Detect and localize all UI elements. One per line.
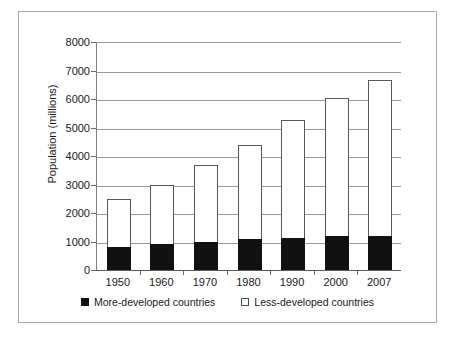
x-tick-mark [314,270,315,275]
x-tick-mark [227,270,228,275]
x-tick-mark [270,270,271,275]
gridline [97,129,401,130]
bar-2007[interactable] [368,80,392,270]
x-tick-mark [140,270,141,275]
y-tick-label: 5000 [50,123,90,133]
bar-segment-more-developed-1990[interactable] [281,238,305,270]
y-tick-label: 3000 [50,180,90,190]
legend-label: More-developed countries [94,296,215,308]
y-tick-label: 0 [50,265,90,275]
bar-1980[interactable] [238,145,262,270]
bar-1950[interactable] [107,199,131,270]
bar-segment-more-developed-2007[interactable] [368,236,392,270]
y-tick-label: 8000 [50,37,90,47]
y-tick-mark [91,156,96,157]
x-tick-label-2007: 2007 [349,276,409,288]
bar-2000[interactable] [325,98,349,270]
bar-1970[interactable] [194,165,218,270]
y-tick-label: 4000 [50,151,90,161]
bar-segment-more-developed-1970[interactable] [194,242,218,271]
y-tick-mark [91,99,96,100]
gridline [97,100,401,101]
legend-item-more-developed[interactable]: More-developed countries [81,296,215,308]
legend-item-less-developed[interactable]: Less-developed countries [241,296,374,308]
y-tick-mark [91,185,96,186]
y-tick-label: 1000 [50,237,90,247]
y-tick-label: 2000 [50,208,90,218]
bar-segment-more-developed-1960[interactable] [150,244,174,270]
bar-segment-more-developed-1980[interactable] [238,239,262,270]
bar-1990[interactable] [281,120,305,270]
y-tick-mark [91,213,96,214]
x-tick-mark [357,270,358,275]
chart-figure: Population (millions) 010002000300040005… [0,0,455,340]
y-tick-mark [91,242,96,243]
plot-area [96,42,401,270]
bar-1960[interactable] [150,185,174,271]
y-tick-mark [91,71,96,72]
bar-segment-more-developed-2000[interactable] [325,236,349,270]
y-tick-label: 6000 [50,94,90,104]
legend-swatch-icon [241,298,249,306]
legend-label: Less-developed countries [254,296,374,308]
y-tick-mark [91,42,96,43]
gridline [97,72,401,73]
y-tick-mark [91,128,96,129]
x-tick-mark [183,270,184,275]
y-axis-tick-labels: 010002000300040005000600070008000 [46,0,90,340]
legend-swatch-icon [81,298,89,306]
x-axis-line [96,270,401,271]
bar-segment-more-developed-1950[interactable] [107,247,131,270]
y-tick-mark [91,270,96,271]
y-tick-label: 7000 [50,66,90,76]
chart-legend: More-developed countriesLess-developed c… [18,296,437,308]
